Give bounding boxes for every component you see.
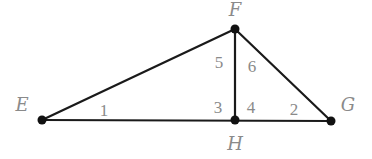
triangle-figure: E F G H 1 2 3 4 5 6 [0,0,372,159]
label-H: H [226,133,243,154]
angle-label-6: 6 [248,57,257,76]
point-G [327,117,336,126]
segment-EF [42,29,235,120]
segment-EG [42,120,331,121]
angle-label-3: 3 [214,98,223,117]
label-G: G [341,94,355,115]
point-E [38,116,47,125]
geometry-diagram: E F G H 1 2 3 4 5 6 [0,0,372,159]
angle-label-4: 4 [247,98,256,117]
label-F: F [228,0,243,20]
point-F [231,25,240,34]
angle-label-2: 2 [290,100,299,119]
point-H [231,116,240,125]
angle-label-1: 1 [100,101,109,120]
angle-label-5: 5 [215,53,224,72]
label-E: E [14,94,28,115]
